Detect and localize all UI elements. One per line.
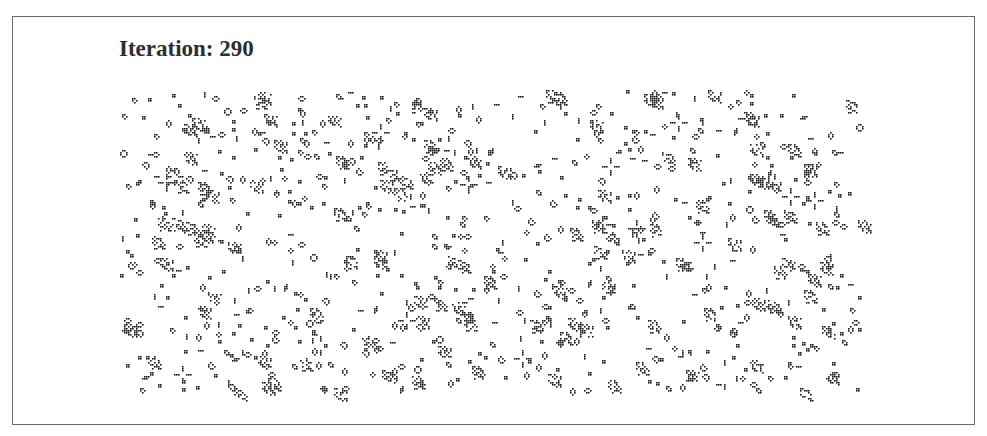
iteration-title: Iteration: 290 [119,36,254,62]
life-grid-canvas[interactable] [120,90,880,410]
